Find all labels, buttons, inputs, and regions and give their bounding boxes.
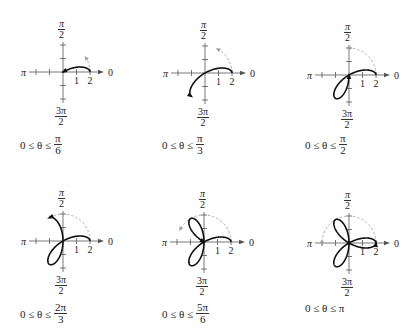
tick-label-2: 2 [374, 246, 379, 257]
theta-range-caption: 0 ≤ θ ≤ π [305, 302, 347, 314]
axis-arrow-icon [384, 241, 390, 245]
angle-label-pi-over-2: π2 [344, 190, 351, 211]
sweep-arrow-icon [320, 242, 324, 247]
angle-label-3pi-over-2: 3π2 [341, 277, 353, 298]
angle-label-pi: π [307, 238, 313, 249]
angle-label-0: 0 [394, 238, 399, 249]
